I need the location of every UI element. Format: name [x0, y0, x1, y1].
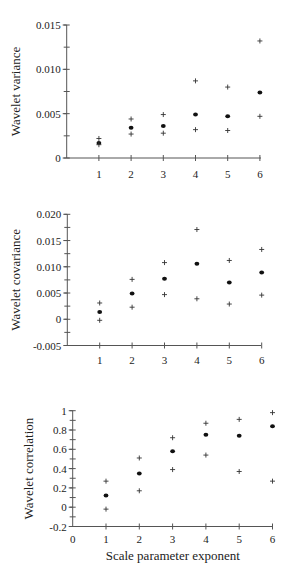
y-tick-label: -0.2 [49, 521, 66, 533]
x-tick-label: 4 [193, 168, 199, 180]
x-tick-label: 1 [96, 168, 102, 180]
x-tick-label: 0 [70, 533, 76, 545]
x-tick-label: 5 [236, 533, 242, 545]
x-tick-label: 6 [257, 168, 263, 180]
estimate-point [237, 434, 242, 438]
x-tick-label: 5 [225, 168, 231, 180]
x-tick-label: 5 [227, 354, 233, 366]
estimate-point [270, 424, 275, 428]
y-tick-label: 0.6 [53, 443, 67, 455]
y-axis-title: Wavelet correlation [21, 417, 36, 519]
estimate-point [204, 433, 209, 437]
estimate-point [161, 124, 166, 128]
y-axis-title: Wavelet covariance [8, 229, 23, 331]
panel-wavelet-covariance: -0.00500.0050.0100.0150.020123456Wavelet… [8, 208, 265, 366]
y-tick-label: 0.010 [36, 63, 61, 75]
panel-wavelet-variance: 00.0050.0100.015123456Wavelet variance [8, 19, 263, 180]
estimate-point [170, 449, 175, 453]
y-tick-label: 0.005 [37, 287, 62, 299]
y-tick-label: 0 [56, 313, 62, 325]
estimate-point [97, 310, 102, 314]
x-tick-label: 6 [270, 533, 276, 545]
estimate-point [227, 281, 232, 285]
estimate-point [259, 271, 264, 275]
x-tick-label: 1 [97, 354, 103, 366]
x-tick-label: 2 [129, 354, 135, 366]
y-tick-label: 0 [55, 152, 61, 164]
y-tick-label: 0.4 [53, 463, 67, 475]
y-tick-label: 0.015 [37, 235, 62, 247]
x-tick-label: 2 [128, 168, 134, 180]
y-tick-label: -0.005 [33, 340, 62, 352]
estimate-point [130, 292, 135, 296]
estimate-point [129, 126, 134, 130]
x-tick-label: 6 [259, 354, 265, 366]
x-tick-label: 3 [162, 354, 168, 366]
y-tick-label: 0.8 [53, 424, 67, 436]
figure-canvas: 00.0050.0100.015123456Wavelet variance -… [0, 0, 289, 575]
x-tick-label: 3 [170, 533, 176, 545]
x-tick-label: 3 [161, 168, 167, 180]
y-tick-label: 0.2 [53, 482, 67, 494]
x-axis-title: Scale parameter exponent [106, 548, 241, 563]
estimate-point [162, 277, 167, 281]
y-tick-label: 0 [61, 501, 67, 513]
x-tick-label: 4 [194, 354, 200, 366]
estimate-point [137, 471, 142, 475]
y-tick-label: 0.010 [37, 261, 62, 273]
x-tick-label: 1 [103, 533, 109, 545]
x-tick-label: 2 [137, 533, 143, 545]
estimate-point [195, 262, 200, 266]
estimate-point [104, 494, 109, 498]
x-tick-label: 4 [203, 533, 209, 545]
figure: 00.0050.0100.015123456Wavelet variance -… [0, 0, 289, 575]
estimate-point [193, 113, 198, 117]
panel-wavelet-correlation: -0.200.20.40.60.810123456Wavelet correla… [21, 405, 276, 563]
y-tick-label: 1 [61, 405, 67, 417]
y-tick-label: 0.005 [36, 108, 61, 120]
y-tick-label: 0.020 [37, 208, 62, 220]
y-tick-label: 0.015 [36, 19, 61, 31]
estimate-point [258, 90, 263, 94]
estimate-point [225, 114, 230, 118]
y-axis-title: Wavelet variance [8, 47, 23, 137]
